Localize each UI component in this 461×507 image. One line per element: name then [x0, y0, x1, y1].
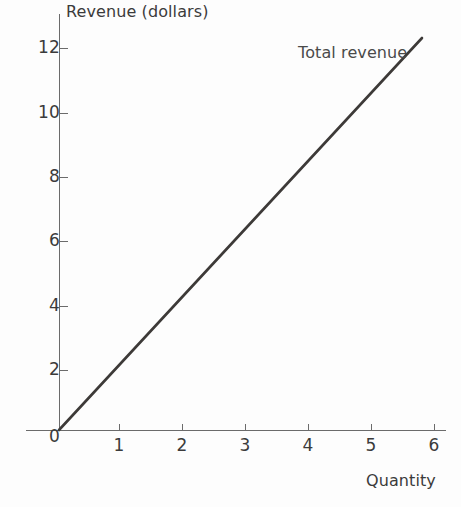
total-revenue-line — [59, 38, 422, 430]
revenue-quantity-chart: Revenue (dollars) 12 10 8 6 4 2 0 1 2 3 … — [0, 0, 461, 507]
x-axis-title: Quantity — [366, 471, 436, 490]
total-revenue-annotation: Total revenue — [298, 43, 407, 62]
plot-area — [0, 0, 461, 507]
